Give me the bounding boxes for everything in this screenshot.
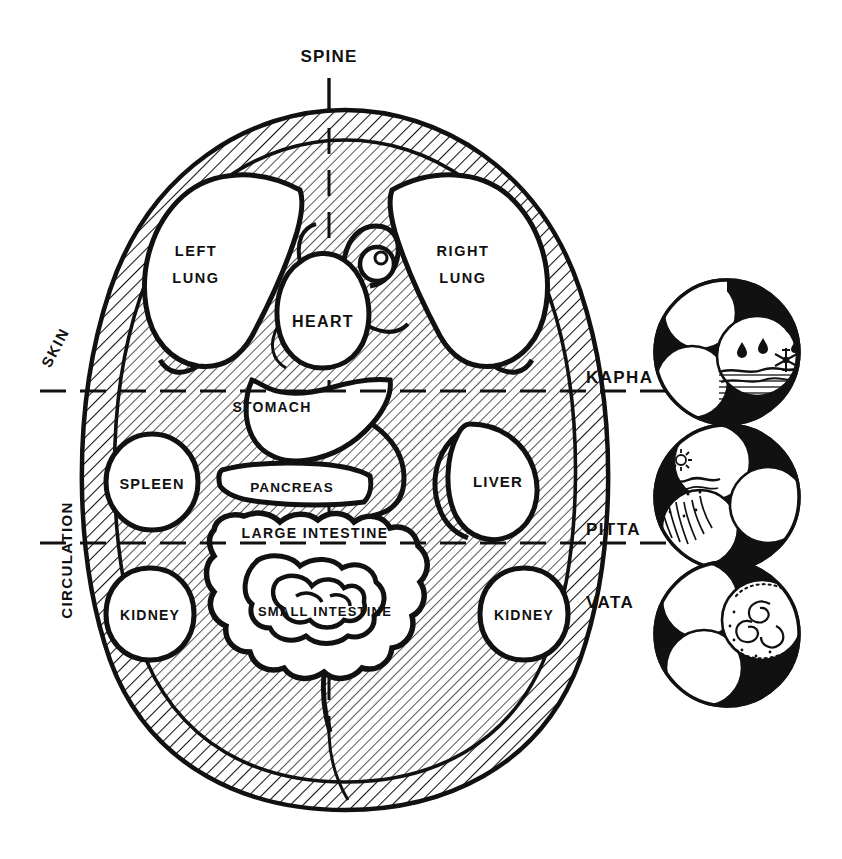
heart-label: HEART xyxy=(292,313,354,330)
small-intestine-label: SMALL INTESTINE xyxy=(258,604,392,619)
kidney-left-label: KIDNEY xyxy=(120,607,180,623)
triskelion-air-icon xyxy=(655,562,802,706)
large-intestine-label: LARGE INTESTINE xyxy=(241,525,388,541)
kidney-right-label: KIDNEY xyxy=(494,607,554,623)
right-lung-label-line1: RIGHT xyxy=(436,243,489,259)
triskelion-fire-icon xyxy=(647,424,806,569)
pitta-label: PITTA xyxy=(586,520,641,539)
anatomical-cross-section-svg: SPINE LEFT LUNG RIGHT LUNG HEART STOMACH… xyxy=(0,0,842,859)
left-lung-label-line2: LUNG xyxy=(172,270,219,286)
vata-label: VATA xyxy=(586,593,634,612)
skin-label: SKIN xyxy=(38,325,73,370)
pancreas-label: PANCREAS xyxy=(250,480,334,495)
circulation-label: CIRCULATION xyxy=(58,501,75,619)
triskelion-water-icon xyxy=(641,277,799,424)
left-lung-label-line1: LEFT xyxy=(175,243,218,259)
kapha-label: KAPHA xyxy=(586,368,653,387)
right-lung-label-line2: LUNG xyxy=(439,270,486,286)
stomach-label: STOMACH xyxy=(233,399,312,415)
spine-label: SPINE xyxy=(300,47,357,66)
spleen-label: SPLEEN xyxy=(119,476,184,492)
diagram-canvas: SPINE LEFT LUNG RIGHT LUNG HEART STOMACH… xyxy=(0,0,842,859)
liver-label: LIVER xyxy=(473,473,523,490)
